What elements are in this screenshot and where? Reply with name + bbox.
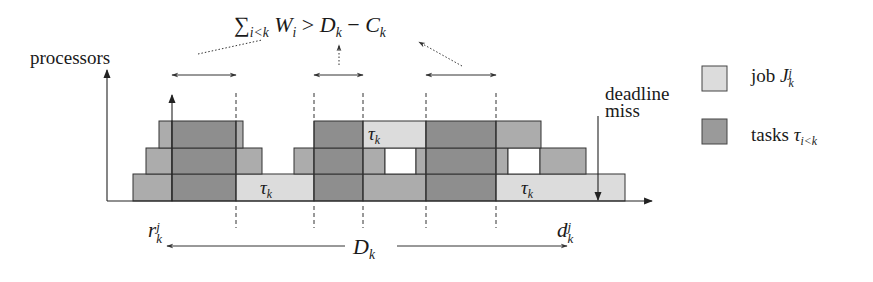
task-block	[540, 148, 586, 174]
scheduling-diagram	[0, 0, 873, 282]
legend-tasks-prefix: tasks	[751, 124, 794, 145]
deadline-sub: k	[568, 233, 574, 245]
release-label: rjk	[148, 220, 162, 245]
span-sub: k	[369, 247, 375, 262]
deadline-base: d	[557, 218, 568, 242]
task-block	[363, 174, 426, 201]
task-block	[294, 148, 314, 174]
formula-W: W	[274, 12, 292, 37]
formula-relation: >	[302, 12, 314, 37]
y-axis-label: processors	[30, 48, 110, 67]
task-block	[236, 148, 262, 174]
task-block	[314, 121, 363, 148]
idle-slot	[385, 148, 416, 174]
task-block	[416, 148, 426, 174]
legend-item-tasks: tasks τi<k	[751, 125, 817, 148]
legend-job-sub: k	[788, 79, 793, 90]
tau-k-label: τk	[260, 178, 272, 201]
formula-D: D	[320, 12, 336, 37]
span-label: Dk	[353, 236, 375, 261]
task-block	[363, 148, 385, 174]
release-base: r	[148, 218, 156, 242]
formula-C: C	[365, 12, 380, 37]
formula-minus: −	[347, 12, 359, 37]
task-block	[172, 174, 236, 201]
legend-job-prefix: job	[751, 65, 780, 86]
sum-symbol: ∑	[234, 12, 250, 37]
release-sub: k	[156, 233, 162, 245]
task-block	[426, 148, 496, 174]
formula-D-sub: k	[336, 25, 342, 40]
task-block	[496, 121, 541, 148]
tau-k-label: τk	[521, 178, 533, 201]
task-block	[172, 121, 236, 148]
task-block	[426, 174, 496, 201]
task-block	[172, 148, 236, 174]
legend-tasks-sub: i<k	[801, 135, 817, 148]
job-block	[496, 174, 625, 201]
task-block	[314, 148, 363, 174]
formula-C-sub: k	[380, 25, 386, 40]
job-block	[236, 174, 314, 201]
formula-W-sub: i	[293, 25, 297, 40]
formula: ∑i<k Wi > Dk − Ck	[234, 14, 386, 39]
dotted-pointer-right	[419, 42, 462, 66]
task-block	[426, 121, 496, 148]
task-block	[496, 148, 508, 174]
deadline-miss-line2: miss	[605, 102, 669, 119]
sum-subscript: i<k	[250, 25, 269, 40]
dotted-pointer-left	[198, 40, 262, 54]
task-block	[159, 121, 172, 148]
idle-slot	[508, 148, 540, 174]
deadline-miss-label: deadline miss	[605, 85, 669, 119]
task-block	[314, 174, 363, 201]
legend-tasks-symbol: τ	[794, 124, 801, 145]
span-base: D	[353, 234, 369, 259]
legend-swatch-tasks	[702, 119, 727, 144]
legend-item-job: job Jjk	[751, 66, 794, 90]
task-block	[133, 174, 172, 201]
task-block	[146, 148, 172, 174]
legend-swatch-job	[702, 66, 727, 91]
task-block	[236, 121, 243, 148]
deadline-label: djk	[557, 220, 573, 245]
tau-k-label: τk	[368, 124, 380, 147]
